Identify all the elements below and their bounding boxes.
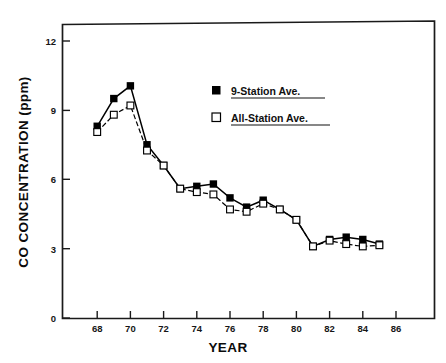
y-tick-label-9: 9 bbox=[51, 105, 56, 116]
x-tick-label-84: 84 bbox=[358, 323, 369, 334]
data-point-marker bbox=[359, 243, 366, 250]
legend-label-9-station: 9-Station Ave. bbox=[231, 85, 300, 97]
x-tick-label-72: 72 bbox=[158, 323, 169, 334]
data-point-marker bbox=[127, 82, 134, 89]
data-point-marker bbox=[343, 241, 350, 248]
data-point-marker bbox=[359, 236, 366, 243]
data-point-marker bbox=[226, 194, 233, 201]
data-point-marker bbox=[127, 102, 134, 109]
data-point-marker bbox=[94, 129, 101, 136]
data-point-marker bbox=[110, 111, 117, 118]
x-tick-label-68: 68 bbox=[92, 323, 103, 334]
y-tick-label-6: 6 bbox=[51, 174, 56, 185]
x-tick-label-70: 70 bbox=[125, 323, 136, 334]
x-tick-label-82: 82 bbox=[324, 323, 335, 334]
data-point-marker bbox=[343, 233, 350, 240]
data-point-marker bbox=[177, 185, 184, 192]
data-point-marker bbox=[193, 189, 200, 196]
data-point-marker bbox=[293, 216, 300, 223]
y-axis-title: CO CONCENTRATION (ppm) bbox=[16, 76, 31, 268]
data-point-marker bbox=[210, 180, 217, 187]
legend-marker-filled-square-icon bbox=[212, 86, 221, 95]
data-point-marker bbox=[376, 242, 383, 249]
x-tick-label-80: 80 bbox=[291, 323, 302, 334]
y-tick-label-3: 3 bbox=[51, 244, 56, 255]
data-point-marker bbox=[110, 95, 117, 102]
legend-marker-open-square-icon bbox=[212, 113, 221, 122]
data-point-marker bbox=[144, 147, 151, 154]
x-tick-label-76: 76 bbox=[225, 323, 236, 334]
chart-figure: 12 9 6 3 0 68 70 72 74 76 78 80 bbox=[0, 0, 446, 363]
data-point-marker bbox=[243, 208, 250, 215]
data-point-marker bbox=[160, 162, 167, 169]
x-tick-label-74: 74 bbox=[192, 323, 203, 334]
data-point-marker bbox=[227, 206, 234, 213]
data-point-marker bbox=[276, 206, 283, 213]
x-tick-label-86: 86 bbox=[391, 323, 402, 334]
y-tick-label-12: 12 bbox=[45, 36, 56, 47]
legend-label-all-station: All-Station Ave. bbox=[231, 112, 308, 124]
data-point-marker bbox=[310, 243, 317, 250]
y-tick-label-0: 0 bbox=[51, 313, 56, 324]
data-point-marker bbox=[326, 237, 333, 244]
co-concentration-line-chart: 12 9 6 3 0 68 70 72 74 76 78 80 bbox=[0, 0, 446, 363]
x-axis-title: YEAR bbox=[208, 340, 247, 355]
data-point-marker bbox=[210, 191, 217, 198]
x-tick-label-78: 78 bbox=[258, 323, 269, 334]
data-point-marker bbox=[260, 200, 267, 207]
chart-background bbox=[0, 0, 446, 363]
